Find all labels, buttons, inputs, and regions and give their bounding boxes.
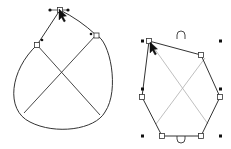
selection-handle-top-right[interactable] — [219, 40, 222, 43]
control-handle-node-right[interactable] — [90, 33, 93, 36]
rotate-handle-bottom-icon[interactable] — [177, 136, 185, 143]
selection-handle-top-left[interactable] — [141, 40, 144, 43]
selection-handle-bottom-right[interactable] — [219, 135, 222, 138]
node-right[interactable] — [94, 33, 99, 38]
polygon-shape[interactable] — [140, 31, 223, 143]
curve-outline[interactable] — [14, 10, 113, 129]
polygon-outline[interactable] — [142, 41, 220, 136]
closed-curve-shape[interactable] — [14, 8, 113, 130]
drawing-canvas[interactable] — [0, 0, 231, 149]
cross-line-a — [37, 45, 100, 115]
selection-handle-mid-right[interactable] — [219, 88, 222, 91]
polygon-node[interactable] — [160, 134, 165, 139]
control-handle-left[interactable] — [48, 8, 51, 11]
polygon-node[interactable] — [140, 95, 145, 100]
rotate-handle-top-icon[interactable] — [177, 31, 185, 39]
polygon-node[interactable] — [199, 53, 204, 58]
mouse-cursor-icon — [150, 42, 158, 55]
guide-line-b — [156, 58, 205, 124]
selection-handle-mid-left[interactable] — [141, 88, 144, 91]
polygon-node[interactable] — [199, 134, 204, 139]
control-handle-right[interactable] — [66, 8, 69, 11]
selection-handle-bottom-left[interactable] — [141, 135, 144, 138]
node-left[interactable] — [35, 43, 40, 48]
control-handle-node-left[interactable] — [41, 39, 44, 42]
polygon-node[interactable] — [218, 95, 223, 100]
